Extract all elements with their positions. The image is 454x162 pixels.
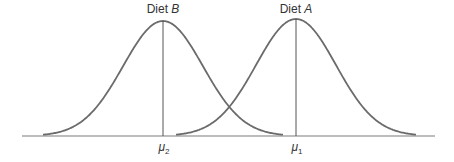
- mu1-subscript: 1: [298, 147, 302, 156]
- diet-b-label: Diet B: [147, 3, 180, 15]
- mu1-tick-label: μ1: [291, 141, 302, 156]
- mu2-symbol: μ: [158, 140, 165, 154]
- diet-a-label: Diet A: [280, 3, 313, 15]
- diet-b-label-prefix: Diet: [147, 2, 172, 16]
- mu2-tick-label: μ2: [158, 141, 169, 156]
- diet-b-label-var: B: [171, 2, 179, 16]
- mu2-subscript: 2: [165, 147, 169, 156]
- mu1-symbol: μ: [291, 140, 298, 154]
- diet-a-label-var: A: [304, 2, 312, 16]
- plot-area: [0, 0, 454, 162]
- diet-a-label-prefix: Diet: [280, 2, 305, 16]
- normal-distributions-figure: Diet B Diet A μ2 μ1: [0, 0, 454, 162]
